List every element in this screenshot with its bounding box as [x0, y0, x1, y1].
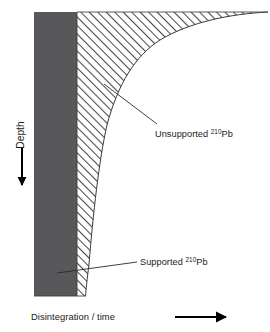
supported-lead210-label: Supported 210Pb	[140, 256, 208, 267]
depth-axis-label: Depth	[15, 121, 26, 148]
supported-isotope-symbol: Pb	[196, 257, 207, 267]
unsupported-isotope-mass: 210	[211, 128, 222, 135]
supported-isotope-mass: 210	[185, 256, 196, 263]
supported-gray-block	[34, 12, 77, 296]
disintegration-axis-label: Disintegration / time	[31, 311, 115, 322]
lead210-depth-profile-figure: Unsupported 210Pb Supported 210Pb Depth …	[0, 0, 270, 332]
unsupported-label-word: Unsupported	[155, 129, 211, 139]
figure-canvas: Unsupported 210Pb Supported 210Pb Depth …	[0, 0, 270, 332]
unsupported-isotope-symbol: Pb	[222, 129, 233, 139]
unsupported-lead210-label: Unsupported 210Pb	[155, 128, 233, 139]
supported-label-word: Supported	[140, 257, 185, 267]
